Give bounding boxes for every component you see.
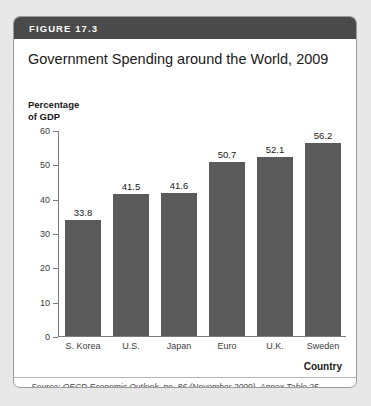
bar-value-label: 56.2 bbox=[314, 130, 333, 141]
bar bbox=[113, 194, 149, 336]
bar-series: 33.8S. Korea41.5U.S.41.6Japan50.7Euro52.… bbox=[59, 131, 346, 336]
figure-number-label: FIGURE 17.3 bbox=[29, 23, 98, 34]
figure-card: FIGURE 17.3 Government Spending around t… bbox=[13, 16, 357, 388]
x-axis-category-label: Sweden bbox=[307, 341, 340, 351]
bar-value-label: 33.8 bbox=[74, 207, 93, 218]
bar-group: 41.6Japan bbox=[161, 131, 197, 336]
bar bbox=[305, 143, 341, 336]
y-axis-title: Percentage of GDP bbox=[28, 99, 79, 123]
x-axis-category-label: S. Korea bbox=[65, 341, 100, 351]
figure-body: Government Spending around the World, 20… bbox=[14, 39, 356, 387]
x-axis-category-label: Japan bbox=[167, 341, 192, 351]
y-axis-tick-label: 30 bbox=[40, 229, 50, 239]
bar bbox=[257, 157, 293, 336]
bar-chart-plot-area: 0102030405060 33.8S. Korea41.5U.S.41.6Ja… bbox=[58, 131, 346, 337]
y-axis-tick-label: 40 bbox=[40, 195, 50, 205]
y-axis-tick bbox=[53, 303, 58, 304]
x-axis-category-label: U.S. bbox=[122, 341, 140, 351]
bar-value-label: 41.6 bbox=[170, 180, 189, 191]
y-axis-tick bbox=[53, 268, 58, 269]
figure-header-bar: FIGURE 17.3 bbox=[14, 17, 356, 39]
bar-value-label: 41.5 bbox=[122, 181, 141, 192]
source-note: Source: OECD Economic Outlook, no. 86 (N… bbox=[31, 382, 321, 388]
bar-value-label: 50.7 bbox=[218, 149, 237, 160]
bar-value-label: 52.1 bbox=[266, 144, 285, 155]
x-axis-title: Country bbox=[304, 361, 342, 372]
bar bbox=[209, 162, 245, 336]
y-axis-tick-label: 20 bbox=[40, 263, 50, 273]
x-axis-category-label: U.K. bbox=[266, 341, 284, 351]
bar-group: 52.1U.K. bbox=[257, 131, 293, 336]
bar bbox=[65, 220, 101, 336]
bar-group: 50.7Euro bbox=[209, 131, 245, 336]
bar-group: 33.8S. Korea bbox=[65, 131, 101, 336]
y-axis-tick-label: 10 bbox=[40, 298, 50, 308]
y-axis-tick-label: 60 bbox=[40, 126, 50, 136]
figure-title: Government Spending around the World, 20… bbox=[28, 50, 338, 69]
bar-group: 41.5U.S. bbox=[113, 131, 149, 336]
y-axis-tick bbox=[53, 131, 58, 132]
x-axis-line bbox=[58, 336, 346, 337]
bar bbox=[161, 193, 197, 336]
bar-group: 56.2Sweden bbox=[305, 131, 341, 336]
y-axis-tick bbox=[53, 165, 58, 166]
y-axis-tick bbox=[53, 234, 58, 235]
x-axis-category-label: Euro bbox=[217, 341, 236, 351]
y-axis-tick bbox=[53, 337, 58, 338]
source-divider bbox=[14, 377, 356, 378]
y-axis-tick-label: 0 bbox=[45, 332, 50, 342]
y-axis-tick bbox=[53, 200, 58, 201]
y-axis-tick-label: 50 bbox=[40, 160, 50, 170]
